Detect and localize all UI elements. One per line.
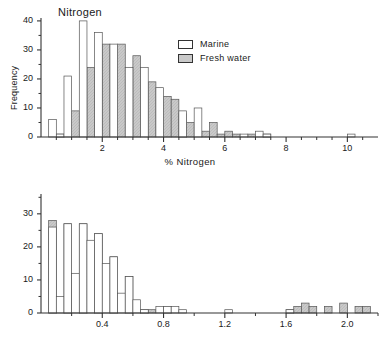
x-tick-label: 1.2 xyxy=(210,319,240,329)
x-tick-label: 0.8 xyxy=(149,319,179,329)
legend-label-marine: Marine xyxy=(200,39,229,49)
y-tick-label: 10 xyxy=(9,102,33,112)
x-tick-label: 10 xyxy=(332,143,362,153)
x-tick-label: 1.6 xyxy=(271,319,301,329)
legend: Marine Fresh water xyxy=(178,38,251,66)
x-tick-label: 0.4 xyxy=(87,319,117,329)
y-tick-label: 40 xyxy=(9,15,33,25)
legend-swatch-fresh-water xyxy=(178,54,193,63)
legend-swatch-marine xyxy=(178,40,193,49)
chart-panel-nitrogen: Nitrogen Frequency % Nitrogen Marine Fre… xyxy=(0,0,385,180)
legend-item-marine: Marine xyxy=(178,38,251,50)
plot-area-phosphorus xyxy=(0,180,385,356)
y-tick-label: 0 xyxy=(9,307,33,317)
y-tick-label: 30 xyxy=(9,44,33,54)
y-tick-label: 10 xyxy=(9,274,33,284)
y-tick-label: 30 xyxy=(9,208,33,218)
figure-root: Nitrogen Frequency % Nitrogen Marine Fre… xyxy=(0,0,385,356)
legend-item-fresh-water: Fresh water xyxy=(178,52,251,64)
axis-label-x-nitrogen: % Nitrogen xyxy=(130,156,250,167)
x-tick-label: 8 xyxy=(271,143,301,153)
x-tick-label: 4 xyxy=(149,143,179,153)
plot-area-nitrogen xyxy=(0,0,385,180)
y-tick-label: 0 xyxy=(9,131,33,141)
x-tick-label: 6 xyxy=(210,143,240,153)
chart-panel-phosphorus: Phosphorus Frequency % Phosphorus xyxy=(0,180,385,356)
page-title-nitrogen: Nitrogen xyxy=(58,6,102,18)
legend-label-fresh-water: Fresh water xyxy=(200,53,251,63)
x-tick-label: 2.0 xyxy=(332,319,362,329)
y-tick-label: 20 xyxy=(9,241,33,251)
x-tick-label: 2 xyxy=(87,143,117,153)
y-tick-label: 20 xyxy=(9,73,33,83)
